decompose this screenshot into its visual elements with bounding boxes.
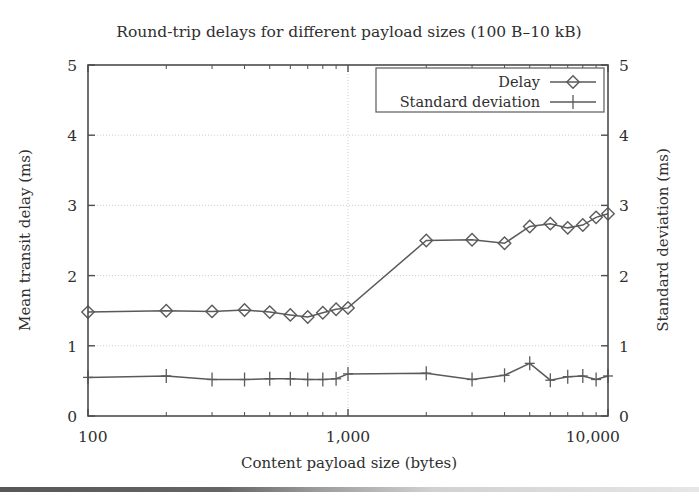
chart-title: Round-trip delays for different payload … — [116, 23, 581, 41]
y2-tick-label-2: 2 — [619, 268, 629, 286]
y2-tick-label-1: 1 — [619, 338, 629, 356]
x-tick-label-10000: 10,000 — [566, 428, 620, 446]
y2-tick-label-0: 0 — [619, 408, 629, 426]
y-tick-label-4: 4 — [67, 127, 77, 145]
y-tick-label-5: 5 — [67, 57, 77, 75]
legend-item-standard-deviation-label: Standard deviation — [400, 94, 540, 110]
legend-item-delay-label: Delay — [498, 74, 540, 90]
chart-legend[interactable]: Delay Standard deviation — [376, 68, 604, 112]
chart-figure: Round-trip delays for different payload … — [0, 0, 699, 501]
page-scan-edge-lower — [0, 492, 699, 501]
y-tick-label-3: 3 — [67, 197, 77, 215]
x-tick-label-1000: 1,000 — [326, 428, 370, 446]
y-tick-label-1: 1 — [67, 338, 77, 356]
x-axis-title: Content payload size (bytes) — [241, 454, 457, 472]
y2-tick-label-5: 5 — [619, 57, 629, 75]
y2-tick-label-3: 3 — [619, 197, 629, 215]
round-trip-delay-chart: Round-trip delays for different payload … — [0, 0, 699, 501]
y-tick-label-2: 2 — [67, 268, 77, 286]
y-axis-title: Mean transit delay (ms) — [16, 149, 34, 331]
y2-tick-label-4: 4 — [619, 127, 629, 145]
x-tick-label-100: 100 — [78, 428, 108, 446]
y-tick-label-0: 0 — [67, 408, 77, 426]
y2-axis-title: Standard deviation (ms) — [654, 148, 672, 332]
